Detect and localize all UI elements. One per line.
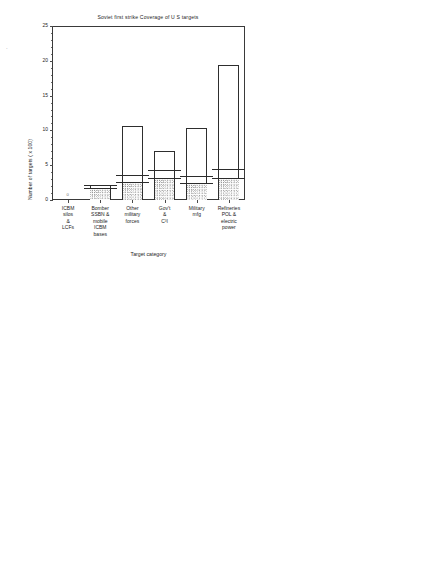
y-minor-tick-top-left bbox=[51, 54, 53, 55]
destroyed-fill-top-left-4 bbox=[187, 183, 207, 200]
y-tick-mark-top-left-25 bbox=[50, 26, 53, 27]
targeted-line-top-left-4 bbox=[180, 176, 213, 177]
targeted-line-top-left-5 bbox=[212, 169, 245, 170]
x-tick-label-top-left-2: Other military forces bbox=[114, 205, 150, 224]
y-minor-tick-top-left bbox=[51, 103, 53, 104]
y-tick-label-top-left-20: 20 bbox=[34, 58, 48, 63]
y-minor-tick-top-left bbox=[51, 82, 53, 83]
x-tick-mark-top-left-5 bbox=[229, 200, 230, 203]
plot-area-top-left bbox=[52, 26, 245, 200]
y-minor-tick-top-left bbox=[51, 116, 53, 117]
y-minor-tick-top-left bbox=[51, 172, 53, 173]
y-minor-tick-top-left bbox=[51, 137, 53, 138]
y-minor-tick-top-left bbox=[51, 193, 53, 194]
y-minor-tick-top-left bbox=[51, 151, 53, 152]
y-minor-tick-top-left bbox=[51, 89, 53, 90]
x-tick-label-top-left-5: Refineries POL & electric power bbox=[211, 205, 247, 231]
y-axis-label-top-left: Number of targets ( x 100) bbox=[27, 139, 33, 200]
y-minor-tick-top-left bbox=[51, 33, 53, 34]
x-tick-mark-top-left-2 bbox=[132, 200, 133, 203]
x-tick-mark-top-left-3 bbox=[165, 200, 166, 203]
figure-page: · Soviet first strike Coverage of U S ta… bbox=[0, 0, 431, 585]
y-minor-tick-top-left bbox=[51, 68, 53, 69]
targeted-line-top-left-3 bbox=[148, 170, 181, 171]
destroyed-fill-top-left-1 bbox=[90, 188, 110, 200]
y-minor-tick-top-left bbox=[51, 40, 53, 41]
zero-marker-top-left: 0 bbox=[67, 192, 69, 197]
y-minor-tick-top-left bbox=[51, 186, 53, 187]
targeted-line-top-left-2 bbox=[116, 175, 149, 176]
x-tick-mark-top-left-0 bbox=[68, 200, 69, 203]
x-axis-label-top-left: Target category bbox=[52, 251, 245, 257]
y-tick-mark-top-left-10 bbox=[50, 130, 53, 131]
y-tick-label-top-left-0: 0 bbox=[34, 197, 48, 202]
destroyed-line-top-left-4 bbox=[180, 183, 213, 184]
y-minor-tick-top-left bbox=[51, 158, 53, 159]
y-tick-mark-top-left-20 bbox=[50, 61, 53, 62]
y-tick-mark-top-left-0 bbox=[50, 200, 53, 201]
destroyed-line-top-left-3 bbox=[148, 178, 181, 179]
destroyed-fill-top-left-5 bbox=[219, 178, 239, 200]
y-minor-tick-top-left bbox=[51, 123, 53, 124]
destroyed-line-top-left-1 bbox=[84, 188, 117, 189]
y-tick-label-top-left-15: 15 bbox=[34, 93, 48, 98]
y-minor-tick-top-left bbox=[51, 179, 53, 180]
x-tick-label-top-left-4: Military mfg bbox=[179, 205, 215, 218]
y-minor-tick-top-left bbox=[51, 75, 53, 76]
destroyed-fill-top-left-2 bbox=[123, 182, 143, 200]
x-tick-label-top-left-3: Gov't & C³I bbox=[147, 205, 183, 224]
y-tick-label-top-left-10: 10 bbox=[34, 127, 48, 132]
y-minor-tick-top-left bbox=[51, 110, 53, 111]
y-tick-mark-top-left-5 bbox=[50, 165, 53, 166]
y-minor-tick-top-left bbox=[51, 144, 53, 145]
destroyed-fill-top-left-3 bbox=[155, 178, 175, 200]
destroyed-line-top-left-5 bbox=[212, 178, 245, 179]
y-tick-mark-top-left-15 bbox=[50, 96, 53, 97]
page-corner-mark: · bbox=[6, 45, 8, 51]
y-tick-label-top-left-25: 25 bbox=[34, 23, 48, 28]
y-minor-tick-top-left bbox=[51, 47, 53, 48]
y-tick-label-top-left-5: 5 bbox=[34, 162, 48, 167]
destroyed-line-top-left-2 bbox=[116, 182, 149, 183]
x-tick-mark-top-left-1 bbox=[100, 200, 101, 203]
x-tick-label-top-left-0: ICBM silos & LCFs bbox=[50, 205, 86, 231]
x-tick-mark-top-left-4 bbox=[197, 200, 198, 203]
x-tick-label-top-left-1: Bomber SSBN & mobile ICBM bases bbox=[82, 205, 118, 237]
chart-title-top-left: Soviet first strike Coverage of U S targ… bbox=[38, 14, 258, 20]
targeted-line-top-left-1 bbox=[84, 185, 117, 186]
